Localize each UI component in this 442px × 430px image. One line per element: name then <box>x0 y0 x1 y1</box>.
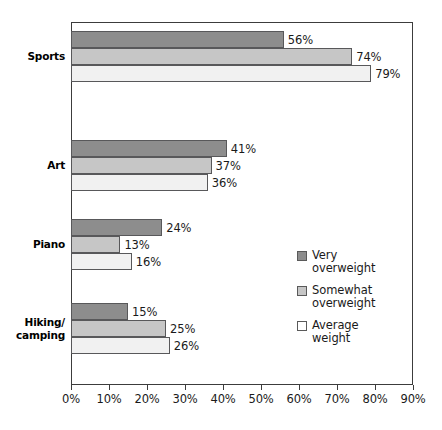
x-tick-mark <box>299 385 300 390</box>
legend-swatch-icon <box>297 251 307 261</box>
bar-1-2 <box>71 174 208 191</box>
x-tick-mark <box>71 385 72 390</box>
bar-value-label: 16% <box>136 255 161 269</box>
x-tick-label: 10% <box>97 392 122 406</box>
bar-value-label: 13% <box>124 238 149 252</box>
category-label-2: Piano <box>0 238 65 251</box>
x-tick-mark <box>223 385 224 390</box>
bar-2-0 <box>71 219 162 236</box>
bar-1-0 <box>71 140 227 157</box>
legend-item-0: Very overweight <box>297 249 375 275</box>
x-tick-label: 50% <box>249 392 274 406</box>
x-tick-mark <box>413 385 414 390</box>
bar-value-label: 26% <box>174 339 199 353</box>
x-tick-label: 80% <box>363 392 388 406</box>
bar-row: 41% <box>71 140 413 157</box>
chart-legend: Very overweightSomewhat overweightAverag… <box>297 249 375 354</box>
bar-row: 36% <box>71 174 413 191</box>
bar-value-label: 41% <box>231 142 256 156</box>
bar-row: 56% <box>71 31 413 48</box>
bar-value-label: 56% <box>288 33 313 47</box>
bar-1-1 <box>71 157 212 174</box>
legend-label: Average weight <box>312 319 359 345</box>
bar-value-label: 37% <box>216 159 241 173</box>
bar-row: 79% <box>71 65 413 82</box>
x-tick-label: 40% <box>211 392 236 406</box>
x-tick-label: 30% <box>173 392 198 406</box>
bar-value-label: 74% <box>356 50 381 64</box>
x-tick-label: 0% <box>62 392 80 406</box>
bar-row: 24% <box>71 219 413 236</box>
legend-swatch-icon <box>297 321 307 331</box>
bar-2-1 <box>71 236 120 253</box>
x-tick-mark <box>147 385 148 390</box>
x-tick-mark <box>261 385 262 390</box>
category-label-3: Hiking/ camping <box>0 316 65 341</box>
chart-title-clipped <box>71 0 413 4</box>
bar-3-0 <box>71 303 128 320</box>
category-label-0: Sports <box>0 50 65 63</box>
bar-0-1 <box>71 48 352 65</box>
category-label-1: Art <box>0 159 65 172</box>
x-tick-mark <box>337 385 338 390</box>
x-tick-mark <box>109 385 110 390</box>
legend-swatch-icon <box>297 286 307 296</box>
bar-value-label: 24% <box>166 221 191 235</box>
legend-label: Very overweight <box>312 249 375 275</box>
x-tick-mark <box>375 385 376 390</box>
bar-value-label: 36% <box>212 176 237 190</box>
bar-value-label: 79% <box>375 67 400 81</box>
bar-0-0 <box>71 31 284 48</box>
bar-3-2 <box>71 337 170 354</box>
x-tick-label: 90% <box>401 392 426 406</box>
bar-3-1 <box>71 320 166 337</box>
x-axis: 0%10%20%30%40%50%60%70%80%90% <box>71 385 413 415</box>
legend-item-1: Somewhat overweight <box>297 284 375 310</box>
bar-value-label: 15% <box>132 305 157 319</box>
x-tick-mark <box>185 385 186 390</box>
bar-value-label: 25% <box>170 322 195 336</box>
legend-label: Somewhat overweight <box>312 284 375 310</box>
legend-item-2: Average weight <box>297 319 375 345</box>
bar-0-2 <box>71 65 371 82</box>
x-tick-label: 60% <box>287 392 312 406</box>
bar-row: 74% <box>71 48 413 65</box>
bar-2-2 <box>71 253 132 270</box>
x-tick-label: 70% <box>325 392 350 406</box>
bar-row: 37% <box>71 157 413 174</box>
x-tick-label: 20% <box>135 392 160 406</box>
